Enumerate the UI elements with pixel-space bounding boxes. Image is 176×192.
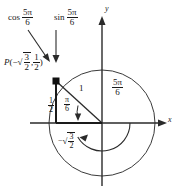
diagram-canvas: cos5π6 sin5π6 P(−√32,12) 12 π6 1 5π6 −√3…	[0, 0, 176, 192]
sin-function-name: sin	[54, 13, 65, 22]
angle-fraction: 5π6	[112, 78, 123, 98]
pi-over-6-fraction: π6	[64, 96, 70, 114]
x-axis-label: x	[168, 116, 172, 124]
y-axis-label: y	[105, 5, 109, 13]
point-x-sqrt: √32	[18, 52, 31, 73]
half-fraction: 12	[48, 97, 54, 115]
cos-function-name: cos	[8, 13, 20, 22]
radical-icon: √	[63, 136, 68, 145]
x-axis-arrowhead	[158, 120, 167, 127]
radical-icon: √	[18, 57, 23, 66]
radius-length-label: 1	[79, 84, 84, 93]
horizontal-leg-label: −√32	[58, 132, 75, 151]
vertical-leg-label: 12	[48, 97, 54, 115]
sin-label: sin5π6	[54, 8, 78, 28]
point-x-fraction: 32	[24, 53, 31, 73]
point-p-marker	[53, 78, 60, 85]
sin-angle-fraction: 5π6	[67, 8, 78, 28]
cos-angle-fraction: 5π6	[22, 8, 33, 28]
sin-pointer-arrowhead	[53, 55, 60, 63]
cos-pointer-arrowhead	[43, 53, 51, 62]
point-coordinates-label: P(−√32,12)	[4, 52, 43, 73]
unit-circle-figure	[0, 0, 176, 192]
angle-measure-label: 5π6	[112, 78, 123, 98]
reference-angle-label: π6	[64, 96, 70, 114]
reference-angle-arrowhead	[75, 114, 81, 122]
sqrt3-over-2-fraction: 32	[68, 133, 74, 151]
cos-label: cos5π6	[8, 8, 33, 28]
point-paren-close: )	[40, 58, 43, 67]
sqrt3-over-2: √32	[63, 132, 76, 151]
y-axis-arrowhead	[99, 16, 106, 25]
